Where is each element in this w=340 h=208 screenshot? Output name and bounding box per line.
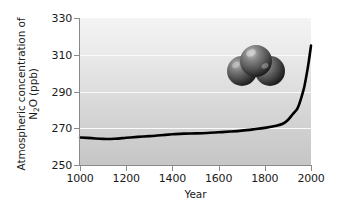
chart-figure: Atmospheric concentration of N2O (ppb) — [0, 0, 340, 208]
y-tick-label-250: 250 — [32, 159, 72, 172]
y-tick-label-330: 330 — [32, 12, 72, 25]
x-tick-label-1800: 1800 — [243, 172, 287, 185]
y-tick-290 — [74, 92, 79, 93]
y-tick-310 — [74, 55, 79, 56]
y-tick-250 — [74, 165, 79, 166]
x-tick-1400 — [172, 166, 173, 171]
y-tick-label-290: 290 — [32, 85, 72, 98]
x-tick-1200 — [126, 166, 127, 171]
x-tick-1000 — [80, 166, 81, 171]
x-axis-line — [80, 165, 312, 166]
x-axis-title: Year — [80, 188, 311, 200]
y-tick-label-270: 270 — [32, 122, 72, 135]
y-axis-title-line1: Atmospheric concentration of — [15, 18, 27, 171]
x-tick-label-1000: 1000 — [58, 172, 102, 185]
y-tick-label-310: 310 — [32, 48, 72, 61]
x-tick-label-1200: 1200 — [104, 172, 148, 185]
y-axis-title-subscript: 2 — [32, 107, 41, 112]
x-tick-1600 — [219, 166, 220, 171]
x-tick-label-2000: 2000 — [289, 172, 333, 185]
y-axis-title-n: N — [27, 112, 39, 120]
x-tick-1800 — [265, 166, 266, 171]
n2o-molecule-icon — [227, 41, 285, 91]
y-tick-330 — [74, 18, 79, 19]
y-axis-line — [79, 18, 80, 166]
x-tick-label-1400: 1400 — [150, 172, 194, 185]
x-tick-label-1600: 1600 — [197, 172, 241, 185]
x-tick-2000 — [311, 166, 312, 171]
y-tick-270 — [74, 128, 79, 129]
